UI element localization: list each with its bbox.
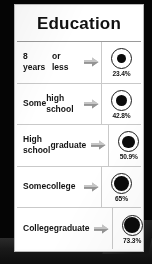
percent-label: 23.4% (112, 70, 130, 77)
percent-label: 42.8% (112, 112, 130, 119)
row-meter-cell: 65% (101, 167, 141, 208)
row-label-line1: 8 years (23, 51, 52, 73)
card-inner: Education 8 yearsor less23.4%Somehigh sc… (17, 7, 141, 249)
table-row: High schoolgraduate50.9% (17, 125, 141, 167)
right-arrow-icon (94, 224, 109, 234)
proportion-ring (111, 48, 132, 69)
table-body: 8 yearsor less23.4%Somehigh school42.8%H… (17, 42, 141, 249)
row-arrow-cell (81, 42, 101, 83)
row-arrow-cell (81, 167, 101, 208)
row-label: High schoolgraduate (17, 125, 88, 166)
proportion-dot (116, 95, 128, 107)
row-label: 8 yearsor less (17, 42, 81, 83)
row-label-line1: Some (23, 98, 46, 109)
proportion-dot (114, 176, 129, 191)
row-label-line2: or less (52, 51, 79, 73)
right-arrow-icon (84, 99, 99, 109)
proportion-dot (122, 136, 135, 149)
proportion-ring (118, 131, 139, 152)
row-label-line1: College (23, 223, 54, 234)
row-meter-cell: 23.4% (101, 42, 141, 83)
table-row: 8 yearsor less23.4% (17, 42, 141, 84)
education-table-card: Education 8 yearsor less23.4%Somehigh sc… (14, 4, 144, 252)
row-label-line2: graduate (54, 223, 90, 234)
right-arrow-icon (91, 140, 106, 150)
proportion-ring (111, 90, 132, 111)
proportion-dot (124, 217, 140, 233)
row-meter-cell: 73.3% (112, 208, 144, 249)
row-arrow-cell (88, 125, 108, 166)
proportion-ring (111, 173, 132, 194)
row-meter-cell: 42.8% (101, 84, 141, 125)
row-label-line2: college (46, 181, 75, 192)
table-row: Somehigh school42.8% (17, 84, 141, 126)
page-title: Education (37, 14, 121, 34)
table-row: Somecollege65% (17, 167, 141, 209)
table-row: Collegegraduate73.3% (17, 208, 141, 249)
row-label: Somehigh school (17, 84, 81, 125)
table-header: Education (17, 7, 141, 42)
row-label-line2: high school (46, 93, 79, 115)
row-arrow-cell (92, 208, 112, 249)
percent-label: 65% (115, 195, 128, 202)
row-label-line1: High school (23, 134, 50, 156)
row-label: Somecollege (17, 167, 81, 208)
row-label-line2: graduate (50, 140, 86, 151)
row-label-line1: Some (23, 181, 46, 192)
proportion-ring (122, 215, 143, 236)
percent-label: 50.9% (120, 153, 138, 160)
right-arrow-icon (84, 182, 99, 192)
row-meter-cell: 50.9% (108, 125, 144, 166)
row-arrow-cell (81, 84, 101, 125)
row-label: Collegegraduate (17, 208, 92, 249)
proportion-dot (117, 54, 126, 63)
right-arrow-icon (84, 57, 99, 67)
percent-label: 73.3% (123, 237, 141, 244)
